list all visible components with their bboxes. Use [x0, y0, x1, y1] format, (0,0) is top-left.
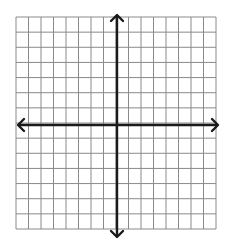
coordinate-plane: [0, 0, 226, 244]
coordinate-grid-svg: [0, 0, 226, 244]
axes: [18, 15, 218, 237]
